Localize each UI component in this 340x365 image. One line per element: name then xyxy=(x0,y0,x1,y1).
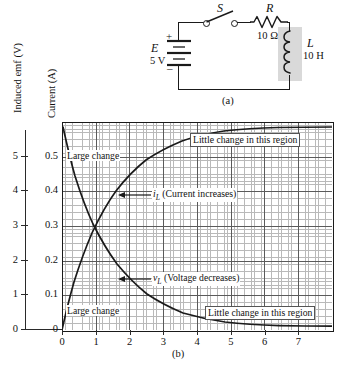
current-curve-label: iL (Current increases) xyxy=(152,188,237,202)
y-left-tick-0 xyxy=(21,329,28,330)
y-left-ticklabel-2: 2 xyxy=(0,254,18,265)
x-ticklabel-4: 4 xyxy=(187,336,207,347)
y-left-ticklabel-1: 1 xyxy=(0,288,18,299)
x-tick-7 xyxy=(298,330,299,335)
voltage-curve-subscript: L xyxy=(157,277,161,286)
y-left-tick-1 xyxy=(21,294,28,295)
wire-switch-to-resistor xyxy=(237,22,251,23)
current-curve-description: (Current increases) xyxy=(162,188,236,199)
resistor-value: 10 Ω xyxy=(257,30,278,41)
inductor-label: L xyxy=(307,36,314,51)
wire-bottom xyxy=(178,89,290,90)
x-tick-6 xyxy=(265,330,266,335)
y-left-ticklabel-3: 3 xyxy=(0,219,18,230)
x-tick-4 xyxy=(197,330,198,335)
x-ticklabel-0: 0 xyxy=(52,336,72,347)
inductor-value: 10 H xyxy=(303,50,324,61)
figure-rl-circuit-transient: S R 10 Ω L 10 H + – E 5 xyxy=(0,0,340,365)
panel-a-caption: (a) xyxy=(222,95,234,106)
annotation-little-change-top: Little change in this region xyxy=(190,133,300,147)
x-tick-3 xyxy=(163,330,164,335)
y-left-ticklabel-5: 5 xyxy=(0,150,18,161)
x-tick-0 xyxy=(62,330,63,335)
y-right-ticklabel-0: 0 xyxy=(36,323,58,334)
y-left-ticklabel-0: 0 xyxy=(0,323,18,334)
inductor-coil-icon xyxy=(281,30,299,78)
annotation-large-change-bottom: Large change xyxy=(66,305,120,316)
battery-minus-sign: – xyxy=(167,62,173,74)
switch-label: S xyxy=(217,1,223,16)
x-ticklabel-7: 7 xyxy=(288,336,308,347)
y-left-tick-2 xyxy=(21,260,28,261)
current-curve-subscript: L xyxy=(156,193,160,202)
x-tick-5 xyxy=(231,330,232,335)
x-ticklabel-3: 3 xyxy=(153,336,173,347)
voltage-curve-description: (Voltage decreases) xyxy=(164,272,239,283)
y-axis-left-title: Induced emf (V) xyxy=(12,43,23,113)
y-axis-left-line xyxy=(25,130,26,330)
battery-plus-sign: + xyxy=(166,30,172,42)
current-curve-leader-arrow-icon xyxy=(118,190,152,200)
y-right-ticklabel-5: 0.5 xyxy=(33,150,58,161)
y-right-ticklabel-4: 0.4 xyxy=(33,184,58,195)
voltage-curve-label: vL (Voltage decreases) xyxy=(152,272,240,286)
wire-top-left xyxy=(178,22,204,23)
annotation-little-change-bottom: Little change in this region xyxy=(205,306,315,320)
voltage-curve-leader-arrow-icon xyxy=(118,274,152,284)
y-axis-right-title: Current (A) xyxy=(46,69,57,118)
y-left-tick-5 xyxy=(21,156,28,157)
x-ticklabel-6: 6 xyxy=(255,336,275,347)
x-tick-2 xyxy=(130,330,131,335)
x-ticklabel-1: 1 xyxy=(86,336,106,347)
y-right-ticklabel-1: 0.1 xyxy=(33,288,58,299)
resistor-label: R xyxy=(266,1,273,16)
circuit-diagram-panel-a: S R 10 Ω L 10 H + – E 5 xyxy=(150,0,340,112)
annotation-large-change-top: Large change xyxy=(66,150,120,161)
x-ticklabel-5: 5 xyxy=(221,336,241,347)
resistor-icon xyxy=(250,14,288,31)
x-ticklabel-2: 2 xyxy=(120,336,140,347)
y-left-tick-4 xyxy=(21,190,28,191)
wire-battery-bottom-riser xyxy=(178,66,179,90)
y-right-ticklabel-3: 0.3 xyxy=(33,219,58,230)
y-left-ticklabel-4: 4 xyxy=(0,184,18,195)
y-left-tick-3 xyxy=(21,225,28,226)
source-label: E xyxy=(151,41,158,56)
source-value: 5 V xyxy=(150,55,165,66)
x-tick-1 xyxy=(96,330,97,335)
panel-b-caption: (b) xyxy=(172,348,184,359)
y-right-ticklabel-2: 0.2 xyxy=(33,254,58,265)
